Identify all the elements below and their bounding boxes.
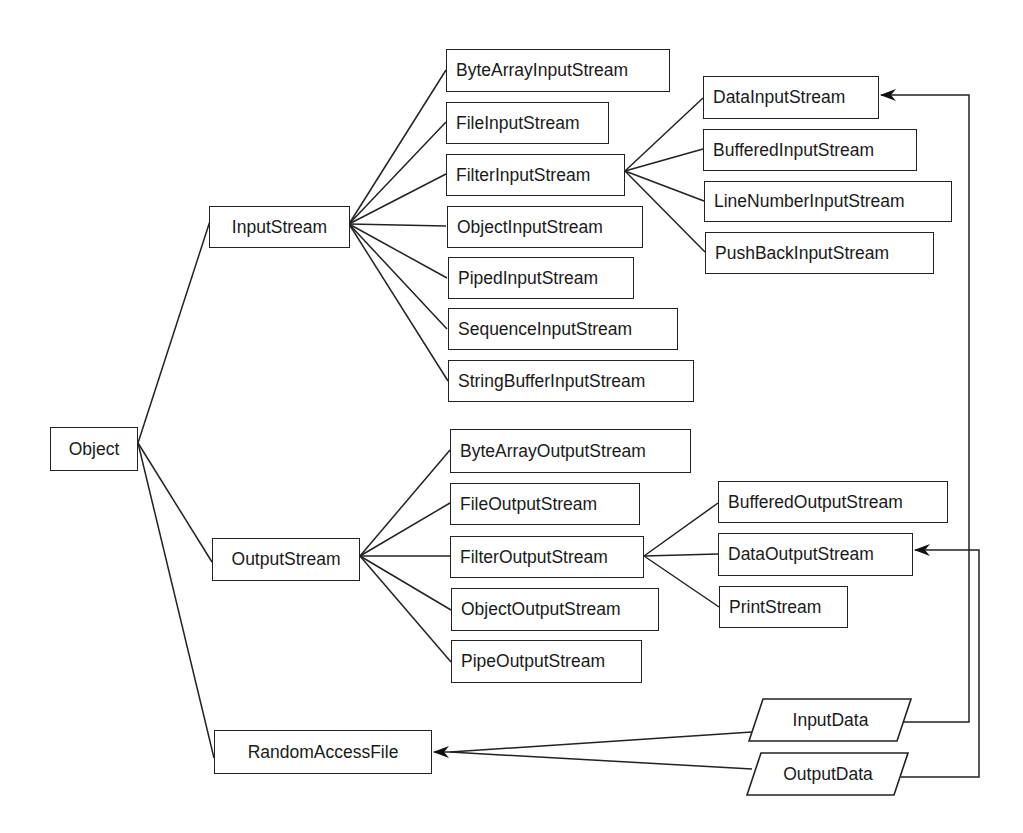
- node-object: Object: [50, 427, 138, 471]
- node-pipedinputstream: PipedInputStream: [448, 257, 634, 299]
- node-inputdata-label: InputData: [793, 710, 869, 731]
- node-filteroutputstream: FilterOutputStream: [450, 536, 644, 578]
- node-randomaccessfile: RandomAccessFile: [214, 730, 432, 774]
- node-pipeoutputstream: PipeOutputStream: [451, 640, 642, 683]
- edge-outputdata-dataoutputstream: [901, 550, 979, 777]
- node-bufferedinputstream: BufferedInputStream: [703, 129, 917, 171]
- node-objectoutputstream: ObjectOutputStream: [451, 588, 659, 631]
- node-printstream: PrintStream: [719, 586, 848, 628]
- node-outputdata-label: OutputData: [783, 764, 873, 785]
- node-outputdata: OutputData: [746, 752, 910, 796]
- node-bufferedoutputstream: BufferedOutputStream: [718, 481, 948, 523]
- node-fileoutputstream: FileOutputStream: [450, 483, 640, 525]
- node-dataoutputstream: DataOutputStream: [718, 533, 913, 576]
- node-outputstream: OutputStream: [212, 538, 360, 581]
- node-fileinputstream: FileInputStream: [446, 102, 609, 144]
- node-pushbackinputstream: PushBackInputStream: [705, 232, 934, 274]
- node-linenumberinputstream: LineNumberInputStream: [704, 181, 952, 222]
- node-bytearrayinputstream: ByteArrayInputStream: [446, 49, 670, 92]
- edge-object-randomaccessfile: [138, 443, 214, 758]
- node-objectinputstream: ObjectInputStream: [447, 206, 643, 248]
- node-bytearrayoutputstream: ByteArrayOutputStream: [450, 429, 691, 473]
- node-datainputstream: DataInputStream: [703, 76, 879, 119]
- node-sequenceinputstream: SequenceInputStream: [448, 308, 678, 350]
- edge-object-inputstream: [138, 221, 210, 443]
- node-filterinputstream: FilterInputStream: [446, 154, 625, 196]
- node-inputdata: InputData: [748, 698, 913, 742]
- node-stringbufferinputstream: StringBufferInputStream: [448, 360, 694, 402]
- edge-object-outputstream: [138, 443, 212, 562]
- node-inputstream: InputStream: [209, 206, 350, 248]
